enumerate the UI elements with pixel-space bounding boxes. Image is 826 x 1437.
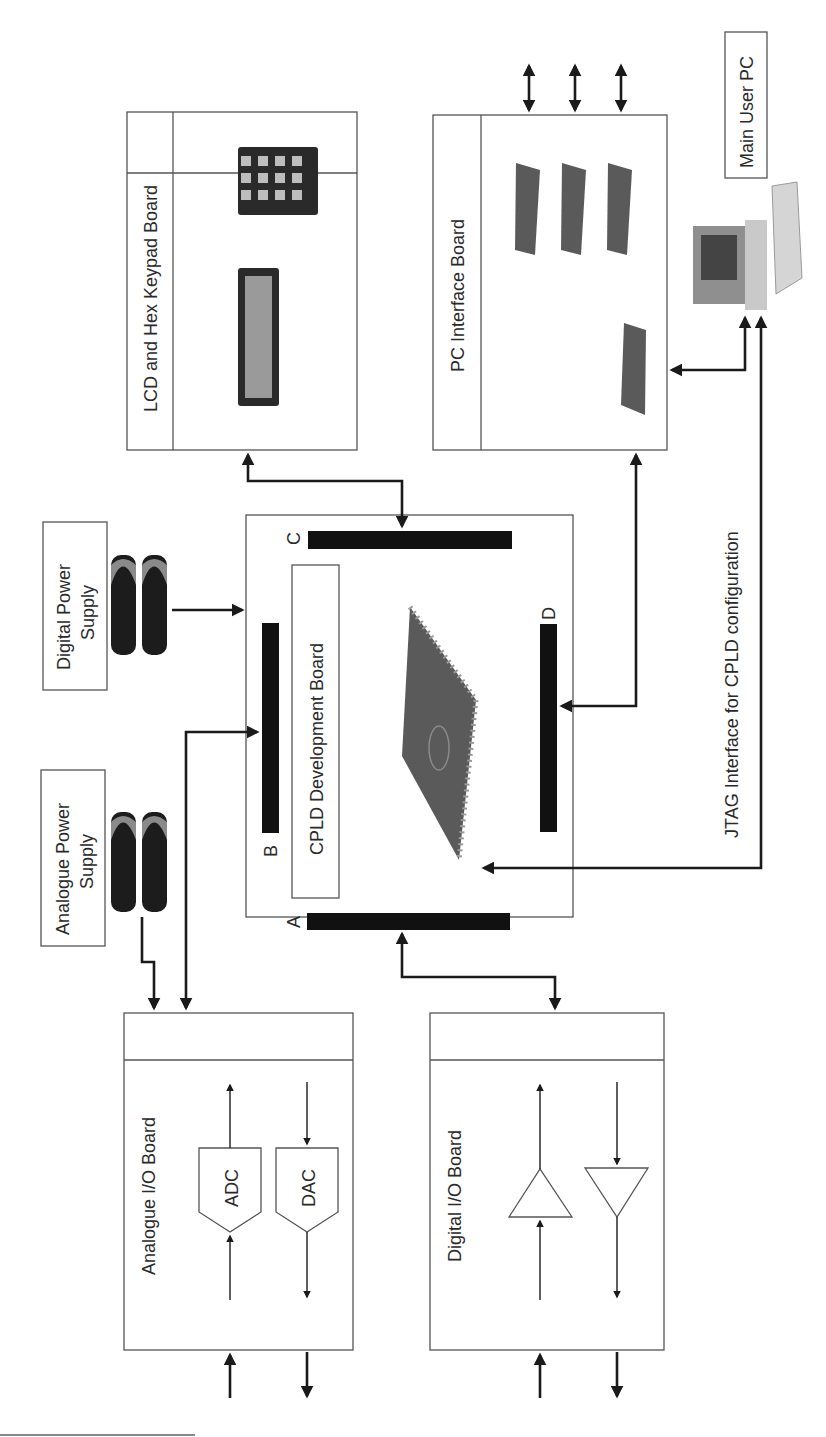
connector-d [540, 624, 557, 832]
cpld-board-title: CPLD Development Board [307, 643, 327, 855]
digital-power-supply: Digital Power Supply [43, 522, 242, 690]
lcd-keypad-board: LCD and Hex Keypad Board [127, 112, 357, 450]
connector-d-label: D [539, 607, 559, 620]
lcd-board-title: LCD and Hex Keypad Board [141, 185, 161, 412]
analogue-power-supply: Analogue Power Supply [41, 770, 167, 1008]
connector-c-label: C [284, 532, 304, 545]
analogue-power-label-1: Analogue Power [53, 803, 73, 935]
jtag-label: JTAG Interface for CPLD configuration [722, 531, 742, 838]
battery-icon [111, 812, 167, 912]
main-user-pc: Main User PC [693, 32, 802, 310]
digital-power-label-1: Digital Power [54, 564, 74, 670]
connector-b [262, 623, 279, 833]
computer-icon [693, 182, 802, 310]
connector-b-label: B [261, 845, 281, 857]
analogue-power-label-2: Supply [77, 834, 97, 889]
analogue-io-board: Analogue I/O Board ADC DAC [124, 1013, 353, 1398]
lcd-display-icon [238, 268, 279, 406]
connector-a-label: A [284, 916, 304, 928]
analogue-io-board-title: Analogue I/O Board [139, 1117, 159, 1275]
pc-interface-board: PC Interface Board [433, 66, 667, 450]
digital-io-board-title: Digital I/O Board [445, 1130, 465, 1262]
analogue-power-arrow [142, 917, 154, 1008]
block-diagram: Analogue I/O Board ADC DAC Digital I/O B… [0, 0, 826, 1437]
connector-a [307, 913, 510, 930]
main-user-pc-title: Main User PC [737, 56, 757, 168]
battery-icon [111, 555, 167, 655]
pc-interface-board-title: PC Interface Board [448, 219, 468, 372]
dac-label: DAC [299, 1169, 319, 1207]
connector-c [308, 531, 512, 549]
hex-keypad-icon [238, 147, 318, 215]
adc-label: ADC [222, 1169, 242, 1207]
pc-to-interface-link [672, 318, 745, 370]
digital-power-label-2: Supply [78, 585, 98, 640]
cpld-a-to-digital-link [402, 934, 555, 1008]
digital-io-board: Digital I/O Board [430, 1013, 664, 1398]
